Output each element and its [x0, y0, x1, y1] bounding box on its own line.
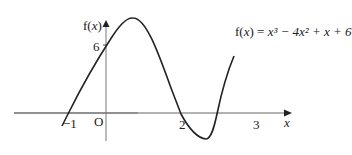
x-tick-label-3: 3 — [253, 118, 260, 131]
y-label-f: f( — [83, 18, 92, 33]
x-tick-label-neg1: −1 — [63, 117, 77, 130]
y-label-close: ) — [97, 18, 101, 33]
x-tick-label-2: 2 — [179, 118, 186, 131]
y-tick-label-6: 6 — [93, 40, 100, 53]
y-axis-arrow-icon — [103, 20, 110, 27]
equation-label: f(x) = x³ − 4x² + x + 6 — [235, 25, 352, 38]
eq-f: f( — [235, 24, 244, 39]
function-curve — [62, 18, 234, 139]
y-axis-label: f(x) — [83, 19, 102, 32]
eq-body: x³ − 4x² + x + 6 — [268, 24, 352, 39]
x-axis-label: x — [284, 116, 290, 129]
origin-label: O — [94, 115, 103, 128]
eq-equals: ) = — [249, 24, 267, 39]
